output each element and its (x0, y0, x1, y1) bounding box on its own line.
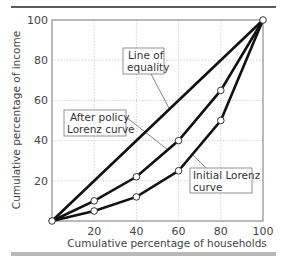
y-tick-labels: 20 40 60 80 100 (27, 14, 48, 188)
after-policy-marker (91, 198, 98, 205)
after-policy-marker (133, 174, 140, 181)
svg-text:curve: curve (193, 181, 222, 193)
endpoint-marker (260, 17, 267, 24)
svg-text:Initial Lorenz: Initial Lorenz (193, 169, 261, 181)
svg-text:equality: equality (127, 61, 169, 73)
initial-marker (218, 117, 225, 124)
y-axis-label: Cumulative percentage of income (10, 31, 22, 209)
y-tick-20: 20 (34, 175, 48, 188)
y-tick-80: 80 (34, 54, 48, 67)
annotation-line-of-equality: Line of equality (123, 48, 169, 74)
bottom-rule (11, 252, 276, 256)
origin-marker (49, 218, 56, 225)
initial-marker (175, 168, 182, 175)
initial-marker (133, 194, 140, 201)
svg-text:Line of: Line of (128, 49, 164, 61)
y-tick-100: 100 (27, 14, 48, 27)
annotation-after-policy: After policy Lorenz curve (64, 110, 135, 136)
y-tick-40: 40 (34, 134, 48, 147)
x-axis-label: Cumulative percentage of households (67, 237, 267, 249)
lorenz-chart: 20 40 60 80 100 20 40 60 80 100 Cumulati… (0, 0, 281, 264)
initial-marker (91, 208, 98, 215)
y-tick-60: 60 (34, 94, 48, 107)
after-policy-marker (218, 87, 225, 94)
after-policy-marker (175, 137, 182, 144)
annotation-initial: Initial Lorenz curve (190, 168, 261, 193)
svg-text:After policy: After policy (70, 111, 129, 123)
svg-text:Lorenz curve: Lorenz curve (67, 123, 135, 135)
